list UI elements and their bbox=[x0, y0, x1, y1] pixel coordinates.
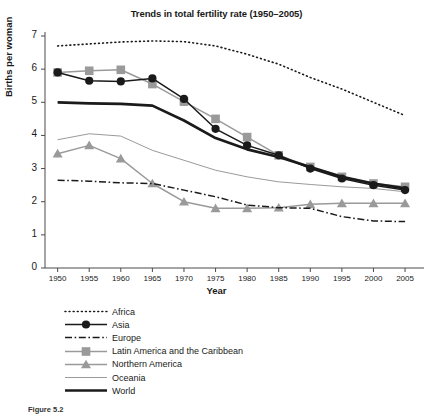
legend-key-asia bbox=[64, 318, 108, 331]
x-tick-label: 1970 bbox=[169, 274, 199, 283]
y-tick-label: 5 bbox=[21, 95, 37, 106]
x-tick-label: 1950 bbox=[43, 274, 73, 283]
legend-label: Africa bbox=[108, 307, 135, 317]
series-asia bbox=[54, 68, 410, 194]
legend-label: Latin America and the Caribbean bbox=[108, 346, 243, 356]
y-tick-label: 4 bbox=[21, 128, 37, 139]
legend-label: Asia bbox=[108, 320, 130, 330]
y-tick-label: 1 bbox=[21, 228, 37, 239]
y-tick-label: 3 bbox=[21, 162, 37, 173]
chart-legend: AfricaAsiaEuropeLatin America and the Ca… bbox=[64, 305, 344, 397]
legend-key-latin-america-and-the-caribbean bbox=[64, 345, 108, 358]
legend-key-northern-america bbox=[64, 358, 108, 371]
legend-label: Oceania bbox=[108, 373, 146, 383]
y-tick-label: 6 bbox=[21, 62, 37, 73]
figure-caption: Figure 5.2 bbox=[28, 405, 63, 414]
y-tick-label: 2 bbox=[21, 195, 37, 206]
x-tick-label: 1955 bbox=[74, 274, 104, 283]
x-tick-label: 1975 bbox=[201, 274, 231, 283]
x-tick-label: 1990 bbox=[295, 274, 325, 283]
x-tick-label: 1985 bbox=[264, 274, 294, 283]
series-europe bbox=[58, 180, 405, 221]
legend-label: World bbox=[108, 386, 135, 396]
fertility-rate-line-chart bbox=[0, 0, 433, 300]
x-tick-label: 1960 bbox=[106, 274, 136, 283]
legend-label: Northern America bbox=[108, 359, 182, 369]
legend-key-africa bbox=[64, 305, 108, 318]
figure-number: Figure 5.2 bbox=[28, 405, 63, 414]
legend-item: Europe bbox=[64, 331, 344, 344]
y-tick-label: 7 bbox=[21, 29, 37, 40]
x-tick-label: 1980 bbox=[232, 274, 262, 283]
legend-item: Northern America bbox=[64, 358, 344, 371]
legend-key-europe bbox=[64, 331, 108, 344]
legend-key-oceania bbox=[64, 371, 108, 384]
legend-key-world bbox=[64, 384, 108, 397]
y-tick-label: 0 bbox=[21, 261, 37, 272]
x-tick-label: 2000 bbox=[358, 274, 388, 283]
x-tick-label: 2005 bbox=[390, 274, 420, 283]
series-latin-america-and-the-caribbean bbox=[53, 66, 409, 192]
legend-item: Africa bbox=[64, 305, 344, 318]
legend-item: World bbox=[64, 384, 344, 397]
legend-item: Latin America and the Caribbean bbox=[64, 345, 344, 358]
legend-label: Europe bbox=[108, 333, 141, 343]
legend-item: Oceania bbox=[64, 371, 344, 384]
x-tick-label: 1995 bbox=[327, 274, 357, 283]
x-tick-label: 1965 bbox=[137, 274, 167, 283]
legend-item: Asia bbox=[64, 318, 344, 331]
series-world bbox=[58, 102, 405, 188]
